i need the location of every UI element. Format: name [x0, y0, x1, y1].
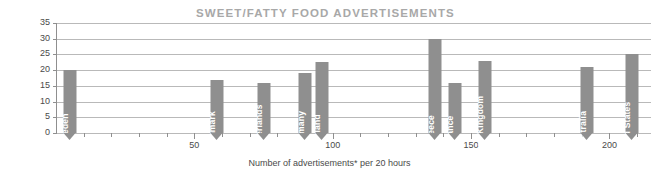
gridline-y	[56, 70, 651, 71]
y-axis-tick	[53, 54, 57, 55]
x-axis-minor-tick	[499, 133, 500, 137]
bar-pin-tip	[581, 133, 593, 140]
bar[interactable]: Greece	[429, 39, 442, 133]
y-axis-tick	[53, 23, 57, 24]
gridline-y	[56, 133, 651, 134]
bar-label: Australia	[577, 111, 587, 149]
chart-container: Data from Lobstein and Dibb, 2005 SWEET/…	[0, 0, 659, 180]
gridline-y	[56, 23, 651, 24]
bar[interactable]: Australia	[581, 67, 594, 133]
x-axis-major-tick	[194, 133, 195, 139]
plot-area: 50100150200SwedenDenmarkNetherlandsGerma…	[56, 23, 651, 133]
x-axis-tick-label: 100	[325, 140, 340, 150]
y-axis-tick	[53, 117, 57, 118]
bar-pin-tip	[299, 133, 311, 140]
y-axis-tick	[53, 133, 57, 134]
bar-pin-tip	[210, 133, 222, 140]
y-axis-tick	[53, 102, 57, 103]
x-axis-minor-tick	[554, 133, 555, 137]
bar-label: Finland	[312, 114, 322, 146]
bar-pin-tip	[315, 133, 327, 140]
bar[interactable]: Finland	[315, 62, 328, 133]
chart-title: SWEET/FATTY FOOD ADVERTISEMENTS	[196, 7, 455, 19]
y-axis-tick-label: 35	[28, 18, 50, 27]
bar[interactable]: United States	[625, 54, 638, 133]
bar-pin-tip	[429, 133, 441, 140]
x-axis-minor-tick	[416, 133, 417, 137]
bar-label: United Kingdom	[475, 96, 485, 164]
x-axis-minor-tick	[637, 133, 638, 137]
y-axis-tick-label: 15	[28, 81, 50, 90]
y-axis-tick-label: 30	[28, 34, 50, 43]
bar-pin-tip	[257, 133, 269, 140]
bar-label: Sweden	[60, 113, 70, 146]
y-axis-tick-label: 20	[28, 65, 50, 74]
bar-pin-tip	[478, 133, 490, 140]
x-axis-major-tick	[471, 133, 472, 139]
x-axis-tick-label: 50	[189, 140, 199, 150]
gridline-y	[56, 102, 651, 103]
bar-pin-tip	[625, 133, 637, 140]
x-axis-minor-tick	[277, 133, 278, 137]
gridline-y	[56, 86, 651, 87]
x-axis-minor-tick	[222, 133, 223, 137]
gridline-y	[56, 54, 651, 55]
bar[interactable]: United Kingdom	[478, 61, 491, 133]
gridline-y	[56, 117, 651, 118]
x-axis-minor-tick	[84, 133, 85, 137]
x-axis-minor-tick	[360, 133, 361, 137]
gridline-y	[56, 39, 651, 40]
y-axis-tick-label: 10	[28, 97, 50, 106]
bar-label: France	[445, 115, 455, 144]
x-axis-minor-tick	[250, 133, 251, 137]
x-axis-minor-tick	[139, 133, 140, 137]
x-axis-tick-label: 200	[602, 140, 617, 150]
x-axis-minor-tick	[526, 133, 527, 137]
x-axis-major-tick	[333, 133, 334, 139]
x-axis-minor-tick	[167, 133, 168, 137]
y-axis-tick-label: 25	[28, 49, 50, 58]
x-axis-major-tick	[609, 133, 610, 139]
bar-pin-tip	[63, 133, 75, 140]
bar-label: Netherlands	[254, 104, 264, 155]
y-axis-tick-label: 0	[28, 128, 50, 137]
y-axis-tick	[53, 70, 57, 71]
y-axis-tick-labels: 05101520253035	[28, 0, 50, 180]
bar[interactable]: France	[448, 83, 461, 133]
y-axis-tick	[53, 86, 57, 87]
x-axis-minor-tick	[388, 133, 389, 137]
y-axis-tick	[53, 39, 57, 40]
y-axis-tick-label: 5	[28, 112, 50, 121]
bar[interactable]: Denmark	[210, 80, 223, 133]
bar-label: Denmark	[207, 111, 217, 149]
bar-label: United States	[622, 102, 632, 159]
x-axis-title: Number of advertisements* per 20 hours	[0, 158, 659, 168]
bar[interactable]: Netherlands	[257, 83, 270, 133]
x-axis-minor-tick	[111, 133, 112, 137]
bar[interactable]: Sweden	[63, 70, 76, 133]
bar-pin-tip	[448, 133, 460, 140]
bar-label: Greece	[425, 115, 435, 145]
bar-label: Germany	[295, 111, 305, 149]
bar[interactable]: Germany	[299, 73, 312, 133]
